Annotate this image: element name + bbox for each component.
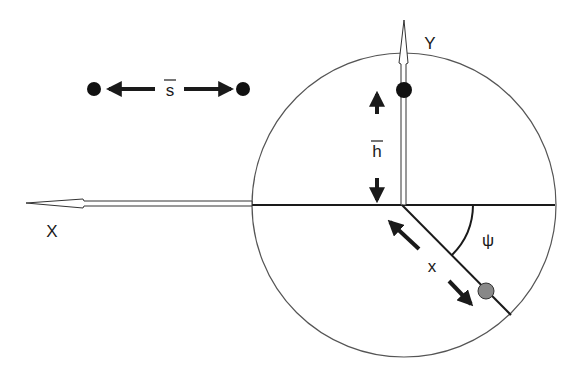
diagram-canvas: h ψ x s X Y [0,0,578,374]
angle-arc [452,205,473,255]
y-axis-dot [396,82,412,98]
x-axis-label: X [46,222,57,241]
radial-line [402,205,511,315]
x-outward-arrow [449,281,471,304]
diagram-svg: h ψ x s X Y [0,0,578,374]
angle-label: ψ [482,231,494,250]
gray-ball [478,283,494,299]
y-axis-label: Y [424,34,435,53]
x-inward-arrow [390,222,419,249]
right-dot [236,82,250,96]
height-label: h [372,142,381,161]
distance-label: x [428,257,437,276]
left-dot [87,82,101,96]
y-axis-arrow [399,20,408,205]
x-axis-arrow [26,199,252,208]
separation-label: s [166,81,175,100]
